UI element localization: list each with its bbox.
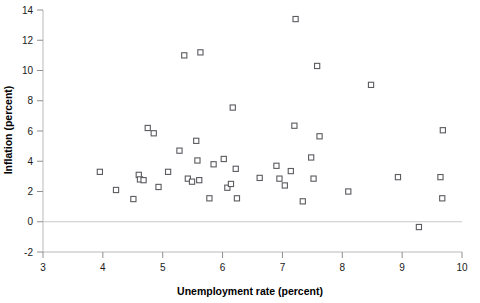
tick-marks [37, 10, 462, 258]
x-tick-label: 5 [160, 262, 166, 273]
x-tick-label: 6 [220, 262, 226, 273]
axes [43, 10, 462, 252]
data-point [346, 189, 351, 194]
y-tick-label: 0 [27, 216, 33, 227]
data-point [293, 16, 298, 21]
y-tick-label: -2 [24, 247, 33, 258]
data-point [440, 196, 445, 201]
data-points [97, 16, 445, 229]
data-point [309, 155, 314, 160]
tick-labels: -202468101214345678910 [22, 5, 468, 274]
scatter-plot-figure: -202468101214345678910 Unemployment rate… [0, 0, 480, 303]
x-axis-title: Unemployment rate (percent) [177, 285, 323, 297]
data-point [189, 179, 194, 184]
y-tick-label: 4 [27, 156, 33, 167]
data-point [274, 163, 279, 168]
y-tick-label: 2 [27, 186, 33, 197]
data-point [282, 183, 287, 188]
data-point [230, 105, 235, 110]
x-tick-label: 8 [340, 262, 346, 273]
x-tick-label: 3 [40, 262, 46, 273]
data-point [228, 181, 233, 186]
chart-canvas: -202468101214345678910 Unemployment rate… [0, 0, 480, 303]
data-point [440, 128, 445, 133]
data-point [156, 184, 161, 189]
data-point [211, 162, 216, 167]
data-point [141, 178, 146, 183]
data-point [195, 158, 200, 163]
y-tick-label: 12 [22, 35, 34, 46]
y-tick-label: 6 [27, 126, 33, 137]
data-point [317, 134, 322, 139]
data-point [221, 156, 226, 161]
data-point [145, 125, 150, 130]
data-point [151, 131, 156, 136]
data-point [207, 196, 212, 201]
data-point [257, 175, 262, 180]
x-tick-label: 4 [100, 262, 106, 273]
y-axis-title: Inflation (percent) [2, 86, 14, 175]
data-point [233, 166, 238, 171]
data-point [97, 169, 102, 174]
y-tick-label: 8 [27, 95, 33, 106]
data-point [315, 63, 320, 68]
data-point [300, 199, 305, 204]
data-point [234, 196, 239, 201]
data-point [198, 50, 203, 55]
data-point [438, 175, 443, 180]
data-point [113, 187, 118, 192]
data-point [197, 178, 202, 183]
data-point [368, 82, 373, 87]
data-point [166, 169, 171, 174]
x-tick-label: 9 [399, 262, 405, 273]
data-point [277, 176, 282, 181]
data-point [182, 53, 187, 58]
y-tick-label: 14 [22, 5, 34, 16]
data-point [177, 148, 182, 153]
y-tick-label: 10 [22, 65, 34, 76]
data-point [131, 196, 136, 201]
x-tick-label: 7 [280, 262, 286, 273]
data-point [292, 123, 297, 128]
x-tick-label: 10 [456, 262, 468, 273]
data-point [311, 176, 316, 181]
data-point [288, 168, 293, 173]
data-point [416, 224, 421, 229]
data-point [395, 175, 400, 180]
data-point [194, 138, 199, 143]
